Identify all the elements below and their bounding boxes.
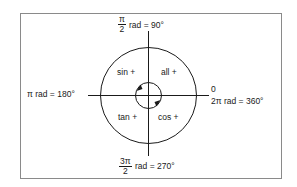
- right-angle-label: 2π rad = 360°: [211, 96, 264, 106]
- fraction-denominator: 2: [123, 167, 128, 176]
- quadrant-label-cos: cos +: [158, 112, 179, 122]
- bottom-angle-label: rad = 270°: [135, 161, 175, 171]
- left-angle-label: π rad = 180°: [27, 89, 75, 99]
- bottom-angle-fraction: 3π 2: [119, 157, 132, 176]
- quadrant-label-all: all +: [161, 67, 177, 77]
- quadrant-label-tan: tan +: [118, 112, 137, 122]
- top-angle-fraction: π 2: [118, 15, 126, 34]
- top-angle-label: rad = 90°: [129, 20, 164, 30]
- right-zero-label: 0: [211, 84, 216, 94]
- quadrant-label-sin: sin +: [117, 67, 135, 77]
- fraction-denominator: 2: [120, 25, 125, 34]
